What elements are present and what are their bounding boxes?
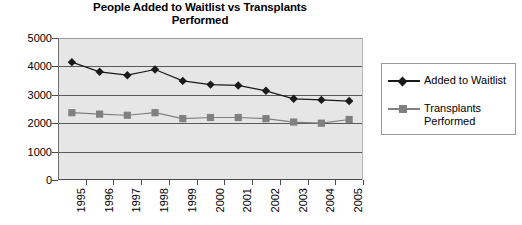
x-tick-mark	[252, 180, 253, 185]
x-tick-label: 2000	[215, 188, 226, 212]
x-tick-mark	[169, 180, 170, 185]
x-tick-mark	[197, 180, 198, 185]
y-tick-label: 4000	[0, 61, 52, 72]
x-tick-mark	[308, 180, 309, 185]
x-tick-mark	[86, 180, 87, 185]
legend-label-transplants-performed: Transplants Performed	[424, 102, 514, 128]
chart-title-line-2: Performed	[40, 14, 360, 27]
gridline	[59, 95, 362, 96]
x-tick-mark	[280, 180, 281, 185]
x-tick-mark	[141, 180, 142, 185]
legend-entry-added-to-waitlist[interactable]: Added to Waitlist	[388, 74, 506, 87]
plot-top-border	[59, 38, 362, 39]
gridline	[59, 152, 362, 153]
gridline	[59, 66, 362, 67]
y-tick-mark	[52, 123, 58, 124]
x-tick-label: 2002	[270, 188, 281, 212]
x-tick-label: 1998	[159, 188, 170, 212]
x-tick-label: 1999	[187, 188, 198, 212]
chart-legend: Added to Waitlist Transplants Performed	[381, 63, 516, 135]
x-tick-label: 2005	[353, 188, 364, 212]
x-tick-mark	[224, 180, 225, 185]
legend-entry-transplants-performed[interactable]: Transplants Performed	[388, 102, 514, 128]
x-tick-label: 1997	[131, 188, 142, 212]
chart-container: People Added to Waitlist vs Transplants …	[0, 0, 522, 225]
legend-label-added-to-waitlist: Added to Waitlist	[424, 74, 506, 87]
x-tick-mark	[363, 180, 364, 185]
y-tick-label: 3000	[0, 89, 52, 100]
y-tick-label: 0	[0, 175, 52, 186]
x-tick-mark	[335, 180, 336, 185]
y-tick-label: 2000	[0, 118, 52, 129]
x-axis: 1995199619971998199920002001200220032004…	[58, 180, 363, 225]
chart-title-line-1: People Added to Waitlist vs Transplants	[93, 1, 307, 13]
chart-title: People Added to Waitlist vs Transplants …	[40, 1, 360, 27]
y-tick-label: 1000	[0, 146, 52, 157]
x-tick-mark	[113, 180, 114, 185]
y-tick-mark	[52, 152, 58, 153]
x-tick-label: 2004	[325, 188, 336, 212]
y-axis: 500040003000200010000	[0, 38, 52, 180]
y-tick-label: 5000	[0, 33, 52, 44]
diamond-marker-icon	[388, 75, 420, 87]
gridline	[59, 123, 362, 124]
square-marker-icon	[388, 103, 420, 115]
y-tick-mark	[52, 66, 58, 67]
y-tick-mark	[52, 95, 58, 96]
plot-area	[58, 38, 363, 180]
x-tick-label: 2001	[242, 188, 253, 212]
x-tick-label: 1996	[104, 188, 115, 212]
y-tick-mark	[52, 38, 58, 39]
x-tick-label: 2003	[298, 188, 309, 212]
x-tick-label: 1995	[76, 188, 87, 212]
